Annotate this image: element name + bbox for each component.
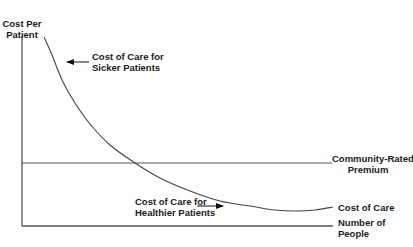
y-axis-label: Cost Per Patient — [2, 18, 42, 40]
x-axis-label-line1: Number of — [338, 217, 386, 228]
x-axis-label-line2: People — [338, 228, 386, 239]
y-axis-label-line1: Cost Per — [2, 18, 42, 29]
sicker-label-line2: Sicker Patients — [92, 62, 164, 73]
cost-of-care-label: Cost of Care — [338, 202, 394, 213]
community-rated-premium-label: Community-Rated Premium — [332, 153, 404, 175]
cost-of-care-label-text: Cost of Care — [338, 202, 394, 213]
premium-label-line2: Premium — [332, 164, 404, 175]
premium-label-line1: Community-Rated — [332, 153, 404, 164]
y-axis-label-line2: Patient — [2, 29, 42, 40]
sicker-patients-label: Cost of Care for Sicker Patients — [92, 51, 164, 73]
healthier-patients-label: Cost of Care for Healthier Patients — [135, 196, 215, 218]
healthier-label-line2: Healthier Patients — [135, 207, 215, 218]
sicker-label-line1: Cost of Care for — [92, 51, 164, 62]
x-axis-label: Number of People — [338, 217, 386, 239]
cost-of-care-curve — [44, 37, 333, 211]
healthier-label-line1: Cost of Care for — [135, 196, 215, 207]
